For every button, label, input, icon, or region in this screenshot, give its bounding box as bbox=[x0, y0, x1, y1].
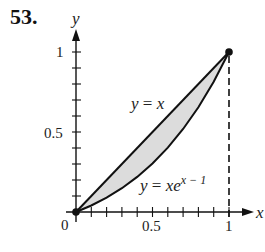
region-between-curves-figure: 53. y x 1 0.5 bbox=[0, 0, 265, 252]
y-axis-label: y bbox=[70, 9, 80, 28]
x-axis-arrow-icon bbox=[242, 208, 254, 216]
label-y-equals-x: y = x bbox=[129, 94, 165, 113]
x-tick-label-0-5: 0.5 bbox=[142, 218, 161, 234]
x-axis-label: x bbox=[255, 203, 264, 222]
point-1-1 bbox=[225, 48, 233, 56]
x-tick-label-0: 0 bbox=[61, 217, 69, 233]
x-tick-label-1: 1 bbox=[225, 218, 233, 234]
problem-number: 53. bbox=[10, 4, 38, 29]
label-y-equals-xe-x-minus-1: y = xex − 1 bbox=[138, 173, 206, 195]
y-tick-label-1: 1 bbox=[56, 44, 64, 60]
y-tick-label-0-5: 0.5 bbox=[44, 125, 63, 141]
y-axis-arrow-icon bbox=[72, 29, 80, 41]
point-origin bbox=[72, 208, 80, 216]
